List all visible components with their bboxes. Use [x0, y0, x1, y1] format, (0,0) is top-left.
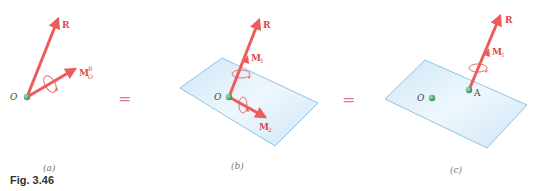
label-point-o-b: O	[214, 92, 222, 102]
figure-caption: Fig. 3.46	[10, 174, 54, 186]
label-moment-a-subscript: O	[88, 73, 93, 80]
plane-c	[385, 60, 527, 148]
panel-a: R M R O O (a)	[10, 19, 93, 173]
panel-a-label: (a)	[43, 163, 56, 173]
plane-b	[180, 58, 318, 146]
label-r-c: R	[505, 15, 513, 25]
vector-r-a	[27, 19, 58, 97]
label-m1-b-subscript: 1	[260, 57, 264, 64]
figure-diagram: R M R O O (a) = R M 1 M 2 O (b) =	[0, 0, 539, 191]
label-m2-b-subscript: 2	[268, 126, 272, 133]
label-m1-c-subscript: 1	[501, 51, 505, 58]
panel-c-label: (c)	[450, 165, 463, 175]
label-point-o-a: O	[10, 92, 18, 102]
equals-sign-1: =	[118, 89, 131, 108]
panel-b: R M 1 M 2 O (b)	[180, 20, 318, 171]
point-o-a	[24, 94, 30, 100]
panel-c: R M 1 O A (c)	[385, 15, 527, 175]
label-r-b: R	[263, 20, 271, 30]
label-point-o-c: O	[417, 93, 425, 103]
point-a-c	[466, 87, 472, 93]
label-moment-a-superscript: R	[88, 65, 93, 72]
label-point-a-c: A	[473, 88, 481, 98]
panel-b-label: (b)	[231, 161, 244, 171]
point-o-b	[226, 94, 232, 100]
equals-sign-2: =	[342, 90, 355, 109]
point-o-c	[429, 95, 435, 101]
label-r-a: R	[62, 20, 70, 30]
vector-moment-a	[27, 69, 75, 97]
